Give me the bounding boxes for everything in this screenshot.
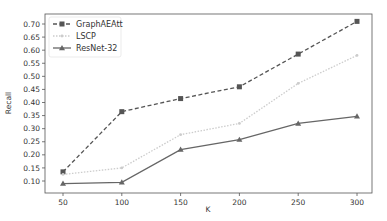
x-tick-label: 250 <box>291 198 306 207</box>
y-tick-label: 0.50 <box>23 72 40 81</box>
square-marker <box>237 84 242 89</box>
x-tick-label: 200 <box>232 198 247 207</box>
series-resnet-32 <box>60 113 360 185</box>
y-tick-label: 0.40 <box>23 98 40 107</box>
square-marker <box>60 22 65 27</box>
dot-marker <box>356 54 359 57</box>
square-marker <box>296 52 301 57</box>
dot-marker <box>62 173 65 176</box>
x-axis-ticks: 50100150200250300 <box>58 193 364 207</box>
y-tick-label: 0.15 <box>23 164 40 173</box>
y-tick-label: 0.60 <box>23 46 40 55</box>
y-axis-ticks: 0.100.150.200.250.300.350.400.450.500.55… <box>23 20 45 186</box>
y-tick-label: 0.10 <box>23 177 40 186</box>
x-tick-label: 50 <box>58 198 68 207</box>
y-axis-label: Recall <box>4 92 13 114</box>
legend-label: LSCP <box>76 32 96 41</box>
square-marker <box>355 19 360 24</box>
dot-marker <box>120 167 123 170</box>
square-marker <box>178 96 183 101</box>
legend-label: ResNet-32 <box>76 44 117 53</box>
square-marker <box>119 109 124 114</box>
series-lscp <box>62 54 359 176</box>
dot-marker <box>238 122 241 125</box>
y-tick-label: 0.65 <box>23 33 40 42</box>
x-tick-label: 100 <box>115 198 130 207</box>
dot-marker <box>61 35 64 38</box>
x-axis-label: K <box>206 205 212 214</box>
dot-marker <box>297 82 300 85</box>
y-tick-label: 0.55 <box>23 59 40 68</box>
x-tick-label: 150 <box>173 198 188 207</box>
y-tick-label: 0.30 <box>23 124 40 133</box>
y-tick-label: 0.35 <box>23 111 40 120</box>
y-tick-label: 0.70 <box>23 20 40 29</box>
dot-marker <box>179 133 182 136</box>
legend-label: GraphAEAtt <box>76 20 123 29</box>
line-chart: 0.100.150.200.250.300.350.400.450.500.55… <box>0 0 387 221</box>
y-tick-label: 0.20 <box>23 150 40 159</box>
y-tick-label: 0.25 <box>23 137 40 146</box>
y-tick-label: 0.45 <box>23 85 40 94</box>
x-tick-label: 300 <box>350 198 365 207</box>
legend: GraphAEAttLSCPResNet-32 <box>49 17 123 57</box>
